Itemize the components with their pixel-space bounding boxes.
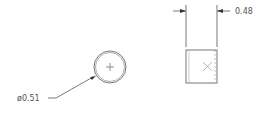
width-label: 0.48 — [235, 7, 253, 16]
diameter-label: ø0.51 — [17, 94, 40, 103]
technical-drawing: ø0.51 0.48 — [0, 0, 268, 118]
arrow-right-icon — [180, 9, 186, 13]
x-mark-icon — [203, 62, 212, 71]
leader-arrowhead-icon — [90, 76, 96, 81]
arrow-left-icon — [217, 9, 223, 13]
front-view: ø0.51 — [17, 51, 126, 103]
diameter-leader-line — [48, 77, 93, 98]
side-view: 0.48 — [173, 5, 253, 83]
side-rectangle — [186, 50, 217, 83]
center-cross-icon — [106, 63, 114, 71]
